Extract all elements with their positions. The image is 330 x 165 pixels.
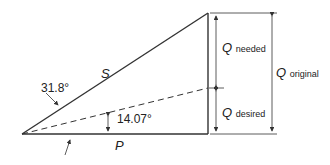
q-needed-label: Q needed — [222, 40, 266, 55]
side-s-label: S — [101, 66, 110, 81]
q-desired-label: Q desired — [222, 105, 265, 120]
angle-desired-label: 14.07° — [117, 112, 152, 126]
base-pointer-arrow — [65, 140, 70, 155]
angle-original-label: 31.8° — [41, 81, 69, 95]
power-triangle-diagram: 31.8° 14.07° S P Q needed Q desired Q or… — [0, 0, 330, 165]
hypotenuse-s — [22, 13, 208, 134]
q-original-label: Q original — [276, 65, 319, 80]
side-p-label: P — [115, 138, 124, 153]
